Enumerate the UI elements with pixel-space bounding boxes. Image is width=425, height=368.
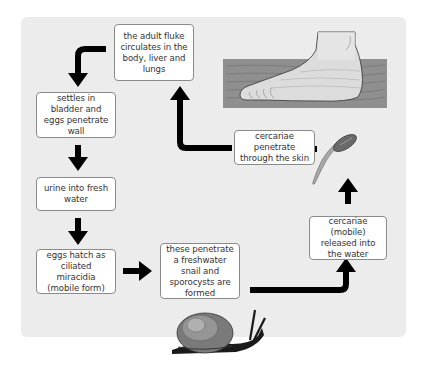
stage-urine: urine into fresh water [36, 177, 116, 211]
foot-in-water-illustration [223, 32, 387, 108]
stage-text: settles in bladder and eggs penetrate wa… [41, 93, 111, 137]
arrow-hatch-to-snail [139, 261, 152, 281]
cercaria-illustration [313, 131, 359, 184]
arrow-adult-to-bladder [78, 49, 106, 74]
stage-text: the adult fluke circulates in the body, … [119, 31, 189, 75]
snail-illustration [172, 310, 265, 354]
stage-penetrate-skin: cercariae penetrate through the skin [234, 130, 315, 165]
stage-eggs-hatch: eggs hatch as ciliated miracidia (mobile… [36, 249, 116, 294]
stage-settles-bladder: settles in bladder and eggs penetrate wa… [36, 92, 116, 138]
arrow-released-up [338, 178, 358, 192]
stage-adult-fluke: the adult fluke circulates in the body, … [114, 24, 194, 81]
stage-text: urine into fresh water [41, 183, 111, 205]
stage-text: cercariae penetrate through the skin [239, 131, 310, 164]
stage-snail: these penetrate a freshwater snail and s… [160, 243, 240, 299]
stage-text: these penetrate a freshwater snail and s… [165, 244, 235, 299]
arrow-head [68, 73, 88, 87]
stage-cercariae-released: cercariae (mobile) released into the wat… [309, 216, 387, 260]
stage-text: eggs hatch as ciliated miracidia (mobile… [41, 250, 111, 294]
stage-text: cercariae (mobile) released into the wat… [314, 216, 382, 260]
arrow-bladder-to-urine [68, 157, 88, 171]
arrow-urine-to-hatch [68, 231, 88, 245]
arrow-snail-to-released [250, 270, 346, 290]
